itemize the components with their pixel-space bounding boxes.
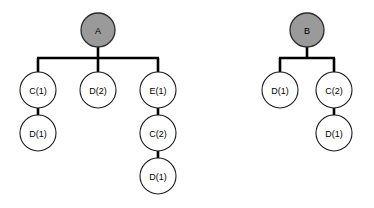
tree-b-group: B D(1) C(2) D(1) <box>262 13 352 151</box>
node-b-root[interactable]: B <box>290 13 324 47</box>
node-b-d1-label: D(1) <box>271 86 289 96</box>
node-a-e1-label: E(1) <box>149 86 166 96</box>
node-a-d2-label: D(2) <box>89 86 107 96</box>
node-a-d1-bottom-label: D(1) <box>149 172 167 182</box>
node-a-root[interactable]: A <box>81 13 115 47</box>
node-a-c1[interactable]: C(1) <box>20 72 56 108</box>
node-a-e1[interactable]: E(1) <box>140 72 176 108</box>
node-b-d1[interactable]: D(1) <box>262 72 298 108</box>
node-b-c2-label: C(2) <box>325 86 343 96</box>
node-a-root-label: A <box>95 26 101 36</box>
node-a-c2-label: C(2) <box>149 129 167 139</box>
node-b-d1-under-c2-label: D(1) <box>325 129 343 139</box>
tree-diagram-svg: A C(1) D(1) D(2) E(1) <box>0 0 374 208</box>
node-a-d2[interactable]: D(2) <box>80 72 116 108</box>
node-b-d1-under-c2[interactable]: D(1) <box>316 115 352 151</box>
node-a-d1-under-c1-label: D(1) <box>29 129 47 139</box>
node-a-d1-bottom[interactable]: D(1) <box>140 158 176 194</box>
node-a-c2[interactable]: C(2) <box>140 115 176 151</box>
node-a-c1-label: C(1) <box>29 86 47 96</box>
diagram-canvas: A C(1) D(1) D(2) E(1) <box>0 0 374 208</box>
node-a-d1-under-c1[interactable]: D(1) <box>20 115 56 151</box>
node-b-root-label: B <box>304 26 310 36</box>
tree-a-group: A C(1) D(1) D(2) E(1) <box>20 13 176 194</box>
node-b-c2[interactable]: C(2) <box>316 72 352 108</box>
